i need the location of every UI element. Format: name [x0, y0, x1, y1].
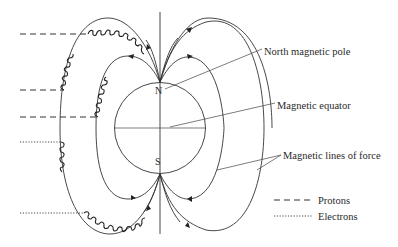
lines-of-force-label: Magnetic lines of force [283, 150, 381, 161]
south-pole-letter: S [155, 156, 161, 167]
magnetosphere-diagram: N S North magnetic pole Magnetic equator… [0, 0, 398, 247]
field-lines-left [60, 18, 160, 234]
north-pole-label: North magnetic pole [264, 46, 351, 57]
field-lines-right [160, 18, 272, 231]
electron-tracks [20, 142, 84, 213]
north-pole-letter: N [155, 85, 162, 96]
equator-label: Magnetic equator [277, 100, 351, 111]
north-pole-leader [165, 49, 262, 89]
legend: Protons Electrons [274, 195, 358, 222]
spiral-tracks [60, 30, 145, 232]
legend-electrons-label: Electrons [318, 211, 358, 222]
proton-tracks [20, 34, 98, 117]
lines-of-force-leader-2 [257, 155, 281, 170]
equator-leader [170, 103, 275, 127]
legend-protons-label: Protons [318, 195, 350, 206]
lines-of-force-leader-1 [217, 155, 281, 170]
